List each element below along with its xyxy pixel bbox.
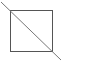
diagram-canvas <box>0 0 94 66</box>
